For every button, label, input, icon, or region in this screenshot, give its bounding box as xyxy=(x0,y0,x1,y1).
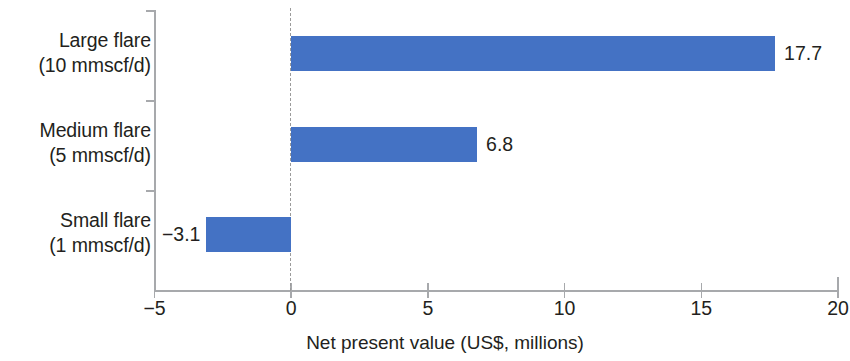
x-axis-tick xyxy=(427,283,429,298)
x-axis-tick-label: 20 xyxy=(808,297,850,320)
bar-value-small-flare: −3.1 xyxy=(150,217,200,252)
bar-medium-flare xyxy=(291,127,477,162)
x-axis-tick xyxy=(837,283,839,298)
y-axis-tick xyxy=(146,190,155,192)
x-axis-tick-label: 10 xyxy=(535,297,595,320)
x-axis-tick-label: −5 xyxy=(125,297,185,320)
category-label-line2: (5 mmscf/d) xyxy=(0,143,151,168)
x-axis-tick-label: 15 xyxy=(671,297,731,320)
x-axis-tick xyxy=(564,283,566,298)
category-label-line2: (1 mmscf/d) xyxy=(0,233,151,258)
x-axis-tick-label: 0 xyxy=(261,297,321,320)
category-label-line1: Small flare xyxy=(60,209,151,231)
category-label-medium-flare: Medium flare (5 mmscf/d) xyxy=(0,118,151,168)
x-axis-tick xyxy=(154,283,156,298)
category-label-line2: (10 mmscf/d) xyxy=(0,53,151,78)
x-axis-line xyxy=(154,290,839,292)
x-axis-tick xyxy=(701,283,703,298)
x-axis-title: Net present value (US$, millions) xyxy=(0,332,850,354)
y-axis-tick xyxy=(146,100,155,102)
bar-value-large-flare: 17.7 xyxy=(784,36,822,71)
category-label-line1: Medium flare xyxy=(39,119,151,141)
category-label-small-flare: Small flare (1 mmscf/d) xyxy=(0,208,151,258)
y-axis-tick xyxy=(146,10,155,12)
bar-small-flare xyxy=(206,217,291,252)
bar-large-flare xyxy=(291,36,775,71)
category-label-line1: Large flare xyxy=(59,29,151,51)
bar-value-medium-flare: 6.8 xyxy=(486,127,513,162)
x-axis-tick-label: 5 xyxy=(398,297,458,320)
bar-chart: Large flare (10 mmscf/d) Medium flare (5… xyxy=(0,0,850,361)
category-label-large-flare: Large flare (10 mmscf/d) xyxy=(0,28,151,78)
